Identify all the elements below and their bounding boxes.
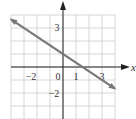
coordinate-plot: x −2 0 1 3 3 −2 — [0, 0, 136, 119]
y-tick-label: −2 — [49, 88, 60, 99]
tick-labels: −2 0 1 3 3 −2 — [26, 22, 105, 99]
x-tick-label: 1 — [74, 71, 79, 82]
x-axis-arrow-icon — [121, 64, 130, 70]
y-tick-label: 3 — [55, 22, 60, 33]
x-tick-label: 0 — [56, 71, 61, 82]
x-axis-label: x — [130, 61, 136, 73]
y-axis-arrow-icon — [60, 1, 66, 10]
x-tick-label: −2 — [26, 71, 37, 82]
